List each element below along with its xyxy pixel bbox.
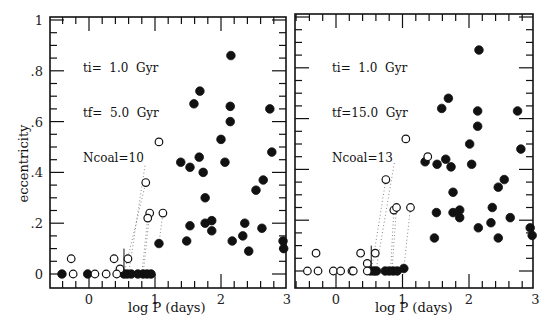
filled-data-point bbox=[447, 163, 456, 172]
filled-data-point bbox=[147, 270, 156, 279]
x-tick-label: 0 bbox=[85, 292, 93, 307]
filled-data-point bbox=[201, 194, 210, 203]
right-xlabel: log P (days) bbox=[375, 300, 453, 315]
filled-data-point bbox=[221, 158, 230, 167]
open-data-point bbox=[314, 267, 322, 275]
left-panel: 01230.2.4.6.81 bbox=[31, 13, 292, 307]
filled-data-point bbox=[238, 232, 247, 241]
open-data-point bbox=[144, 214, 152, 222]
y-tick-label: .2 bbox=[31, 216, 43, 231]
filled-data-point bbox=[226, 117, 235, 126]
open-data-point bbox=[91, 270, 99, 278]
filled-data-point bbox=[207, 227, 216, 236]
y-tick-label: .6 bbox=[31, 115, 43, 130]
filled-data-point bbox=[258, 224, 267, 233]
filled-data-point bbox=[506, 213, 515, 222]
evolution-trail bbox=[391, 210, 394, 271]
open-data-point bbox=[312, 249, 320, 257]
x-tick-label: 2 bbox=[217, 292, 225, 307]
filled-data-point bbox=[513, 107, 522, 116]
filled-data-point bbox=[517, 145, 526, 154]
filled-data-point bbox=[444, 94, 453, 103]
filled-data-point bbox=[433, 160, 442, 169]
left-annotation-ti: ti= 1.0 Gyr bbox=[83, 61, 159, 76]
right-annotation-tf: tf=15.0 Gyr bbox=[332, 106, 408, 121]
filled-data-point bbox=[430, 234, 439, 243]
filled-data-point bbox=[252, 186, 261, 195]
filled-data-point bbox=[400, 264, 409, 273]
evolution-trail bbox=[142, 218, 148, 274]
filled-data-point bbox=[526, 224, 535, 233]
filled-data-point bbox=[473, 122, 482, 131]
filled-data-point bbox=[488, 203, 497, 212]
y-tick-label: 0 bbox=[35, 267, 43, 282]
open-data-point bbox=[113, 270, 121, 278]
x-tick-label: 2 bbox=[465, 292, 473, 307]
open-data-point bbox=[67, 255, 75, 263]
open-data-point bbox=[337, 267, 345, 275]
right-annotation: ti= 1.0 Gyr tf=15.0 Gyr Ncoal=13 bbox=[332, 31, 408, 181]
filled-data-point bbox=[244, 247, 253, 256]
left-annotation-tf: tf= 5.0 Gyr bbox=[83, 106, 159, 121]
filled-data-point bbox=[494, 234, 503, 243]
filled-data-point bbox=[190, 100, 199, 109]
filled-data-point bbox=[279, 244, 288, 253]
filled-data-point bbox=[437, 104, 446, 113]
filled-data-point bbox=[494, 183, 503, 192]
filled-data-point bbox=[475, 46, 484, 55]
filled-data-point bbox=[207, 216, 216, 225]
right-annotation-ti: ti= 1.0 Gyr bbox=[332, 61, 408, 76]
filled-data-point bbox=[58, 270, 67, 279]
evolution-trail bbox=[404, 208, 411, 269]
filled-data-point bbox=[465, 140, 474, 149]
open-data-point bbox=[393, 204, 401, 212]
filled-data-point bbox=[176, 158, 185, 167]
filled-data-point bbox=[473, 107, 482, 116]
filled-data-point bbox=[195, 153, 204, 162]
open-data-point bbox=[424, 153, 432, 161]
open-data-point bbox=[371, 249, 379, 257]
filled-data-point bbox=[455, 213, 464, 222]
filled-data-point bbox=[266, 105, 275, 114]
open-data-point bbox=[304, 267, 312, 275]
plot-frame bbox=[295, 14, 533, 288]
open-data-point bbox=[110, 255, 118, 263]
open-data-point bbox=[69, 270, 77, 278]
filled-data-point bbox=[227, 51, 236, 60]
left-xlabel: log P (days) bbox=[128, 300, 206, 315]
filled-data-point bbox=[155, 239, 164, 248]
filled-data-point bbox=[474, 224, 483, 233]
open-data-point bbox=[330, 267, 338, 275]
filled-data-point bbox=[182, 237, 191, 246]
filled-data-point bbox=[259, 176, 268, 185]
filled-data-point bbox=[487, 218, 496, 227]
open-data-point bbox=[102, 270, 110, 278]
filled-data-point bbox=[199, 168, 208, 177]
filled-data-point bbox=[432, 208, 441, 217]
x-tick-label: 3 bbox=[283, 292, 291, 307]
open-data-point bbox=[349, 267, 357, 275]
filled-data-point bbox=[196, 87, 205, 96]
y-tick-label: .4 bbox=[31, 165, 43, 180]
x-tick-label: 0 bbox=[332, 292, 340, 307]
filled-data-point bbox=[449, 188, 458, 197]
open-data-point bbox=[363, 260, 371, 268]
y-tick-label: .8 bbox=[31, 64, 43, 79]
x-tick-label: 3 bbox=[531, 292, 539, 307]
open-data-point bbox=[124, 255, 132, 263]
filled-data-point bbox=[226, 102, 235, 111]
open-data-point bbox=[363, 267, 371, 275]
open-data-point bbox=[159, 209, 167, 217]
filled-data-point bbox=[186, 221, 195, 230]
filled-data-point bbox=[186, 163, 195, 172]
filled-data-point bbox=[467, 160, 476, 169]
left-annotation-ncoal: Ncoal=10 bbox=[83, 151, 159, 166]
open-data-point bbox=[407, 204, 415, 212]
filled-data-point bbox=[268, 148, 277, 157]
filled-data-point bbox=[528, 231, 537, 240]
filled-data-point bbox=[441, 155, 450, 164]
left-annotation: ti= 1.0 Gyr tf= 5.0 Gyr Ncoal=10 bbox=[83, 31, 159, 181]
filled-data-point bbox=[500, 175, 509, 184]
filled-data-point bbox=[240, 219, 249, 228]
open-data-point bbox=[357, 249, 365, 257]
